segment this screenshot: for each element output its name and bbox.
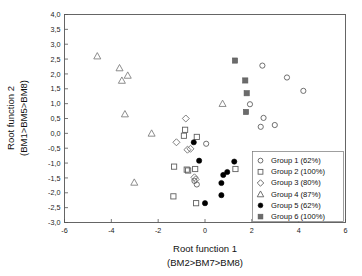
y-tick-label: -3,0 bbox=[48, 218, 60, 227]
y-tick-label: 3,0 bbox=[51, 40, 61, 49]
legend-item-label: Group 1 (62%) bbox=[271, 156, 321, 165]
y-tick-label: -2,5 bbox=[48, 203, 60, 212]
x-tick-label: -4 bbox=[108, 226, 114, 235]
legend-item-label: Group 6 (100%) bbox=[271, 212, 325, 221]
y-tick-label: 1,0 bbox=[51, 99, 61, 108]
x-tick-label: 6 bbox=[344, 226, 348, 235]
y-tick-label: -0,5 bbox=[48, 144, 60, 153]
legend-item-label: Group 2 (100%) bbox=[271, 167, 325, 176]
y-tick-label: 1,5 bbox=[51, 84, 61, 93]
point-filled-circle bbox=[219, 180, 224, 185]
x-tick-label: 2 bbox=[250, 226, 254, 235]
y-axis-title: Root function 2 bbox=[5, 86, 16, 150]
point-filled-square bbox=[243, 109, 248, 114]
point-filled-square bbox=[232, 58, 237, 63]
y-tick-label: 2,0 bbox=[51, 70, 61, 79]
y-tick-label: -1,5 bbox=[48, 174, 60, 183]
y-axis-subtitle: (BM1>BM5>BM8) bbox=[18, 80, 29, 156]
x-axis-title: Root function 1 bbox=[173, 243, 237, 254]
y-tick-label: -2,0 bbox=[48, 188, 60, 197]
point-filled-circle bbox=[258, 203, 263, 208]
y-tick-label: 4,0 bbox=[51, 10, 61, 19]
y-tick-label: 3,5 bbox=[51, 25, 61, 34]
point-filled-circle bbox=[202, 201, 207, 206]
point-filled-circle bbox=[219, 193, 224, 198]
legend-item-label: Group 5 (62%) bbox=[271, 201, 321, 210]
scatter-plot-figure: 4,03,53,02,52,01,51,00,50,0-0,5-1,0-1,5-… bbox=[0, 0, 362, 276]
legend-item-label: Group 3 (80%) bbox=[271, 178, 321, 187]
point-filled-circle bbox=[191, 140, 196, 145]
y-tick-label: -1,0 bbox=[48, 159, 60, 168]
point-filled-circle bbox=[232, 159, 237, 164]
y-tick-label: 2,5 bbox=[51, 55, 61, 64]
y-tick-label: 0,5 bbox=[51, 114, 61, 123]
point-filled-square bbox=[244, 91, 249, 96]
point-filled-circle bbox=[225, 169, 230, 174]
point-filled-square bbox=[258, 214, 263, 219]
point-filled-square bbox=[243, 78, 248, 83]
y-tick-label: 0,0 bbox=[51, 129, 61, 138]
chart-canvas: 4,03,53,02,52,01,51,00,50,0-0,5-1,0-1,5-… bbox=[0, 0, 362, 276]
x-tick-label: -2 bbox=[155, 226, 161, 235]
x-tick-label: 0 bbox=[203, 226, 207, 235]
x-axis-subtitle: (BM2>BM7>BM8) bbox=[167, 257, 243, 268]
x-tick-label: 4 bbox=[297, 226, 301, 235]
x-tick-label: -6 bbox=[61, 226, 67, 235]
point-filled-circle bbox=[197, 158, 202, 163]
legend: Group 1 (62%)Group 2 (100%)Group 3 (80%)… bbox=[253, 152, 344, 222]
legend-item-label: Group 4 (87%) bbox=[271, 190, 321, 199]
